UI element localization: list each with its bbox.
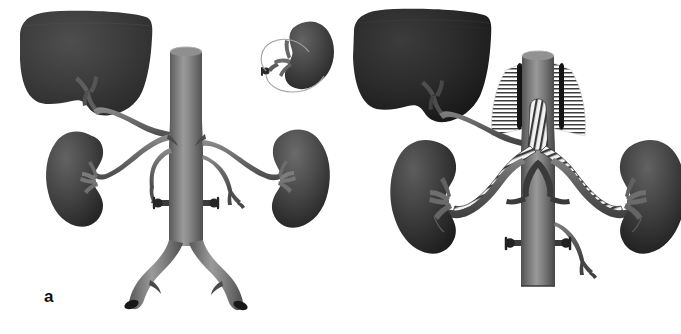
panel-b-illustration [340,0,681,334]
aortotomy-flap-right [559,63,564,130]
panel-b: b [340,0,681,334]
right-kidney-b [620,140,681,254]
panel-a: a [0,0,340,334]
aorta-b [521,51,555,286]
panel-a-illustration [0,0,340,334]
panel-label-a: a [44,287,53,307]
liver-b [353,9,491,122]
corrugated-graft-central [528,99,548,150]
aorta-a [169,47,203,246]
aortotomy-flap-left [517,63,522,130]
figure-container: a [0,0,681,334]
